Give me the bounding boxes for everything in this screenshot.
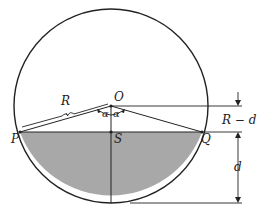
arrow-down-icon [235, 100, 241, 106]
label-p: P [10, 132, 20, 146]
label-q: Q [201, 132, 211, 146]
label-s: S [114, 132, 122, 146]
label-alpha-right: α [113, 108, 120, 119]
point-s [109, 130, 112, 133]
label-alpha-left: α [102, 108, 109, 119]
label-o: O [114, 90, 124, 104]
arrow-up-icon [235, 132, 241, 138]
circle-segment-diagram: O P Q S R α α R − d d [0, 0, 259, 218]
label-d: d [234, 160, 242, 174]
label-r-minus-d: R − d [221, 113, 257, 127]
arrow-down-icon [235, 197, 241, 203]
label-r: R [60, 94, 70, 108]
